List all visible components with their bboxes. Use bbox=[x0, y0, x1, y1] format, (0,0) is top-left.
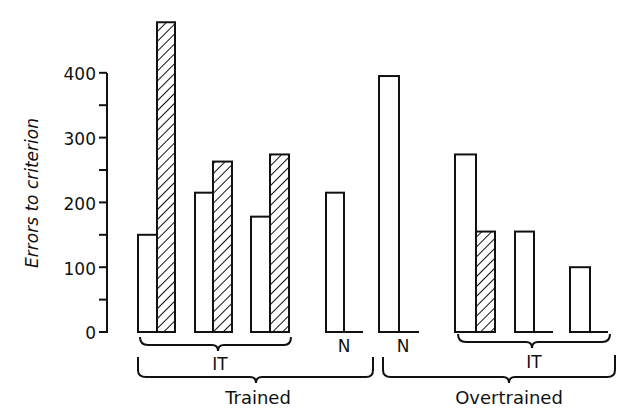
label-overtrained-n: N bbox=[397, 336, 410, 356]
label-trained-it: IT bbox=[212, 354, 228, 374]
label-overtrained: Overtrained bbox=[455, 387, 563, 408]
label-trained: Trained bbox=[224, 387, 291, 408]
label-trained-n: N bbox=[338, 336, 351, 356]
y-tick-label-300: 300 bbox=[64, 129, 96, 149]
y-tick-label-100: 100 bbox=[64, 259, 96, 279]
bar-overtrained-n-1-open bbox=[379, 76, 399, 332]
y-axis: 0 100 200 300 400 bbox=[64, 64, 107, 343]
bar-trained-it-1-open bbox=[138, 235, 157, 332]
brace-overtrained-it bbox=[458, 334, 610, 348]
y-axis-label: Errors to criterion bbox=[22, 118, 42, 268]
bar-trained-it-1-hatched bbox=[157, 22, 175, 332]
bar-chart: Errors to criterion 0 100 200 300 400 IT… bbox=[0, 0, 634, 418]
bar-overtrained-it-3-open bbox=[570, 267, 590, 332]
y-tick-label-200: 200 bbox=[64, 194, 96, 214]
brace-trained-it bbox=[140, 337, 291, 351]
bar-trained-n-1-open bbox=[326, 193, 344, 332]
label-overtrained-it: IT bbox=[526, 352, 542, 372]
bar-overtrained-it-1-open bbox=[455, 154, 476, 332]
y-tick-label-400: 400 bbox=[64, 64, 96, 84]
bar-trained-it-2-open bbox=[195, 193, 213, 332]
bar-trained-it-2-hatched bbox=[213, 162, 232, 332]
bracket-overtrained bbox=[383, 355, 615, 383]
y-tick-label-0: 0 bbox=[85, 323, 96, 343]
y-axis-ticks bbox=[99, 73, 107, 332]
bars bbox=[138, 22, 608, 332]
bar-overtrained-it-1-hatched bbox=[476, 232, 495, 332]
bar-trained-it-3-hatched bbox=[270, 154, 289, 332]
y-tick-labels: 0 100 200 300 400 bbox=[64, 64, 96, 343]
bar-trained-it-3-open bbox=[251, 217, 270, 332]
bar-overtrained-it-2-open bbox=[515, 232, 534, 332]
bracket-trained bbox=[138, 357, 373, 383]
